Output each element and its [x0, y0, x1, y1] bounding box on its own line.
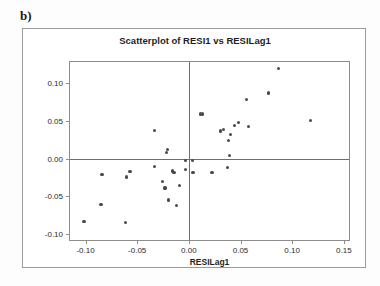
scatter-point	[210, 171, 213, 174]
scatter-point	[233, 124, 236, 127]
scatter-point	[245, 98, 248, 101]
x-tick-label: 0.10	[284, 246, 300, 255]
scatter-point	[153, 165, 156, 168]
x-tick-label: 0.05	[233, 246, 249, 255]
scatter-point	[125, 175, 128, 178]
scatter-point	[173, 171, 176, 174]
y-tick-label: -0.05	[45, 192, 63, 201]
x-tick-label: -0.10	[76, 246, 94, 255]
scatter-point	[228, 154, 231, 157]
scatter-point	[82, 220, 85, 223]
panel-label: b)	[20, 8, 32, 24]
scatter-point	[201, 112, 204, 115]
scatter-point	[267, 91, 270, 94]
scatter-point	[237, 121, 240, 124]
y-tick	[66, 196, 70, 197]
scatter-point	[309, 119, 312, 122]
x-axis-title: RESILag1	[69, 257, 350, 267]
y-tick	[66, 121, 70, 122]
scatter-point	[229, 133, 232, 136]
scatter-point	[247, 125, 250, 128]
scatter-point	[184, 159, 187, 162]
x-tick-label: 0.15	[336, 246, 352, 255]
scatter-point	[191, 159, 194, 162]
scatter-point	[128, 170, 131, 173]
x-tick-label: -0.05	[128, 246, 146, 255]
scatter-point	[191, 171, 194, 174]
plot-area: -0.10-0.050.000.050.10 -0.10-0.050.000.0…	[69, 61, 350, 241]
scatter-point	[163, 186, 166, 189]
x-tick	[241, 240, 242, 244]
chart-title: Scatterplot of RESI1 vs RESILag1	[23, 35, 367, 46]
scatter-point	[161, 180, 164, 183]
y-tick-label: 0.00	[47, 154, 63, 163]
scatter-point	[222, 128, 225, 131]
figure-root: b) Scatterplot of RESI1 vs RESILag1 RESI…	[0, 0, 380, 286]
scatter-point	[175, 204, 178, 207]
reference-line-vertical	[189, 62, 190, 240]
y-tick-label: -0.10	[45, 229, 63, 238]
x-tick	[344, 240, 345, 244]
x-tick	[189, 240, 190, 244]
y-tick	[66, 234, 70, 235]
reference-line-horizontal	[70, 159, 349, 160]
scatter-point	[184, 168, 187, 171]
scatter-point	[100, 173, 103, 176]
x-tick	[137, 240, 138, 244]
y-tick-label: 0.05	[47, 116, 63, 125]
x-tick	[292, 240, 293, 244]
x-tick	[86, 240, 87, 244]
y-tick	[66, 83, 70, 84]
y-axis-title: RESI1	[31, 0, 43, 73]
scatter-point	[165, 151, 168, 154]
chart-container: Scatterplot of RESI1 vs RESILag1 RESI1 -…	[22, 28, 366, 268]
scatter-point	[124, 221, 127, 224]
scatter-point	[178, 184, 181, 187]
scatter-point	[277, 67, 280, 70]
x-tick-label: 0.00	[181, 246, 197, 255]
scatter-point	[226, 166, 229, 169]
scatter-point	[166, 148, 169, 151]
y-tick-label: 0.10	[47, 79, 63, 88]
scatter-point	[227, 139, 230, 142]
scatter-point	[167, 198, 170, 201]
y-tick	[66, 159, 70, 160]
scatter-point	[99, 203, 102, 206]
scatter-point	[153, 129, 156, 132]
